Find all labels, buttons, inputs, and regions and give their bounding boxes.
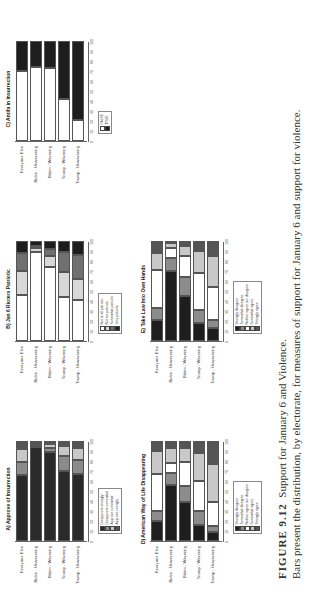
bar-segment: [30, 41, 42, 67]
bar-segment: [16, 71, 28, 141]
category-label: Everyone Else: [154, 546, 159, 573]
bar-segment: [207, 532, 219, 541]
bar-segment: [44, 267, 56, 341]
bar-segment: [165, 248, 177, 258]
axis-tick: 60: [90, 280, 94, 284]
category-label: Trump - Unwavering: [210, 546, 215, 584]
axis-tick: 80: [90, 260, 94, 264]
panel-title: C) Antifa in Insurrection: [5, 4, 11, 194]
stacked-bar: [72, 441, 84, 541]
bar-segment: [151, 320, 163, 341]
figure-caption: FIGURE 9.12 Support for January 6 and Vi…: [275, 19, 303, 579]
stacked-bar: [58, 441, 70, 541]
legend: Disapprove stronglyDisapprove somewhatAp…: [98, 488, 122, 534]
bar-segment: [193, 251, 205, 273]
legend-item: Strongly agree: [255, 484, 260, 531]
bar-segment: [30, 443, 42, 445]
bar-segment: [165, 473, 177, 485]
bar-segment: [30, 248, 42, 252]
bar-segment: [165, 258, 177, 271]
legend-swatch: [255, 526, 260, 531]
axis-tick: 50: [90, 290, 94, 294]
bar-segment: [44, 249, 56, 256]
bar-segment: [207, 241, 219, 256]
stacked-bar: [193, 241, 205, 341]
legend-label: Somewhat disagree: [240, 295, 244, 325]
x-axis: 0102030405060708090100: [88, 242, 97, 342]
bar-segment: [179, 256, 191, 277]
stacked-bar: [165, 241, 177, 341]
stacked-bar: [16, 441, 28, 541]
axis-tick: 0: [90, 541, 94, 543]
bar-segment: [58, 456, 70, 471]
category-label: Trump - Wavering: [61, 146, 66, 179]
legend: Strongly disagreeSomewhat disagreeNeithe…: [233, 481, 262, 534]
axis-tick: 50: [90, 90, 94, 94]
bar-segment: [165, 241, 177, 243]
axis-tick: 70: [90, 270, 94, 274]
x-axis: 0102030405060708090100: [88, 442, 97, 542]
axis-tick: 70: [225, 470, 229, 474]
x-axis: 0102030405060708090100: [88, 42, 97, 142]
axis-tick: 90: [90, 450, 94, 454]
bar-segment: [72, 448, 84, 460]
category-label: Biden - Unwavering: [33, 146, 38, 183]
axis-tick: 90: [90, 50, 94, 54]
category-label: Trump - Unwavering: [75, 546, 80, 584]
category-label: Biden - Unwavering: [33, 546, 38, 583]
chart-panel: C) Antifa in InsurrectionEveryone ElseBi…: [5, 4, 123, 194]
x-axis: 0102030405060708090100: [223, 442, 232, 542]
bar-segment: [179, 277, 191, 296]
axis-tick: 0: [225, 541, 229, 543]
category-label: Trump - Unwavering: [210, 346, 215, 384]
axis-tick: 60: [225, 280, 229, 284]
stacked-bar: [16, 41, 28, 141]
axis-tick: 70: [225, 270, 229, 274]
axis-tick: 60: [225, 480, 229, 484]
stacked-bar: [30, 241, 42, 341]
bar-segment: [30, 445, 42, 447]
legend-swatch: [105, 126, 110, 131]
stacked-bar: [179, 441, 191, 541]
axis-tick: 70: [90, 70, 94, 74]
category-labels: Everyone ElseBiden - UnwaveringBiden - W…: [15, 344, 87, 394]
bar-segment: [72, 41, 84, 120]
legend-label: Not at all patriotic: [100, 298, 104, 324]
bar-segment: [151, 451, 163, 474]
category-label: Biden - Wavering: [182, 546, 187, 578]
bar-segment: [165, 485, 177, 541]
bar-segment: [179, 486, 191, 502]
category-label: Everyone Else: [19, 146, 24, 173]
legend-label: Strongly agree: [255, 502, 259, 524]
category-label: Trump - Wavering: [196, 546, 201, 579]
legend-label: Very patriotic: [115, 305, 119, 325]
bar-segment: [58, 471, 70, 541]
bar-segment: [58, 441, 70, 446]
legend-item: Approve strongly: [115, 491, 120, 531]
bar-segment: [151, 253, 163, 270]
legend-item: Strongly agree: [255, 284, 260, 331]
axis-tick: 30: [90, 110, 94, 114]
axis-tick: 40: [225, 500, 229, 504]
axis-tick: 20: [90, 120, 94, 124]
x-axis: 0102030405060708090100: [223, 242, 232, 342]
category-label: Biden - Wavering: [182, 346, 187, 378]
stacked-bar: [30, 41, 42, 141]
category-label: Trump - Wavering: [61, 346, 66, 379]
legend-label: Strongly disagree: [235, 298, 239, 324]
legend-label: Somewhat disagree: [240, 495, 244, 525]
stacked-bar: [179, 241, 191, 341]
axis-tick: 40: [90, 300, 94, 304]
bar-segment: [207, 464, 219, 502]
plot-area: [15, 441, 87, 542]
axis-tick: 80: [225, 460, 229, 464]
figure-title: Support for January 6 and Violence.: [276, 339, 288, 498]
panel-title: D) American Way of Life Disappearing: [140, 404, 146, 594]
bar-segment: [30, 246, 42, 248]
axis-tick: 20: [225, 520, 229, 524]
axis-tick: 90: [225, 250, 229, 254]
bar-segment: [151, 441, 163, 451]
bar-segment: [207, 328, 219, 341]
figure: A) Approve of InsurrectionEveryone ElseB…: [0, 0, 331, 599]
bar-segment: [165, 441, 177, 448]
